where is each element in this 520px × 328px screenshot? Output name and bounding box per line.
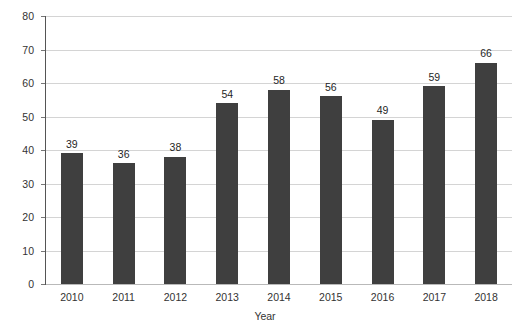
bar-fill [164,157,186,284]
bar[interactable]: 49 [372,120,394,284]
y-axis-tick-label: 70 [0,45,34,56]
x-axis-tick-label: 2015 [306,292,356,303]
bar[interactable]: 54 [216,103,238,284]
y-axis-tick-label: 20 [0,212,34,223]
bar-fill [216,103,238,284]
x-axis-tick-label: 2011 [99,292,149,303]
bar-value-label: 38 [170,142,182,153]
x-axis-title-text: Year [254,310,275,322]
bar-value-label: 36 [118,149,130,160]
bar[interactable]: 38 [164,157,186,284]
y-axis-tick-label: 10 [0,246,34,257]
y-axis-tick-label: 80 [0,11,34,22]
bar[interactable]: 59 [423,86,445,284]
bar-value-label: 49 [377,105,389,116]
x-axis-tick-label: 2012 [150,292,200,303]
plot-area: 393638545856495966 [46,16,512,284]
bar-chart: 393638545856495966 01020304050607080 201… [0,0,520,328]
x-axis-tick-label: 2016 [358,292,408,303]
x-axis-tick-label: 2010 [47,292,97,303]
bar[interactable]: 66 [475,63,497,284]
bar-value-label: 56 [325,82,337,93]
bar-value-label: 66 [480,48,492,59]
y-axis-tick-mark [41,83,45,84]
bar-fill [113,163,135,284]
bar-fill [320,96,342,284]
gridline [46,50,512,51]
gridline [46,16,512,17]
bar[interactable]: 58 [268,90,290,284]
bar-fill [475,63,497,284]
y-axis-tick-mark [41,284,45,285]
bar-value-label: 59 [428,72,440,83]
y-axis-tick-mark [41,251,45,252]
y-axis-tick-mark [41,184,45,185]
y-axis-tick-mark [41,16,45,17]
bar[interactable]: 56 [320,96,342,284]
x-axis-tick-label: 2013 [202,292,252,303]
bar-fill [372,120,394,284]
gridline [46,284,512,285]
y-axis-tick-label: 60 [0,78,34,89]
y-axis-tick-mark [41,217,45,218]
bar-value-label: 58 [273,75,285,86]
y-axis-tick-label: 50 [0,112,34,123]
x-axis-title: Year [0,311,520,322]
y-axis-tick-mark [41,50,45,51]
y-axis-tick-label: 40 [0,145,34,156]
y-axis-tick-mark [41,150,45,151]
y-axis-tick-mark [41,117,45,118]
bar-value-label: 39 [66,139,78,150]
x-axis-tick-label: 2018 [461,292,511,303]
bar-fill [423,86,445,284]
bar-value-label: 54 [221,89,233,100]
x-axis-tick-label: 2014 [254,292,304,303]
bar-fill [268,90,290,284]
bar-fill [61,153,83,284]
bar[interactable]: 36 [113,163,135,284]
x-axis-tick-label: 2017 [409,292,459,303]
bar[interactable]: 39 [61,153,83,284]
y-axis-tick-label: 0 [0,279,34,290]
y-axis-tick-label: 30 [0,179,34,190]
